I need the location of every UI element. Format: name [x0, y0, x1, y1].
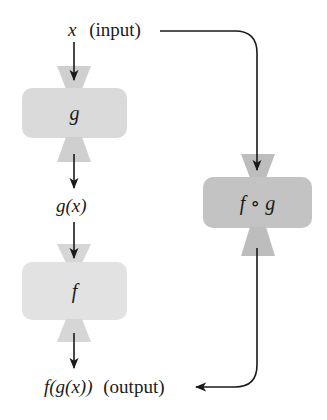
arrow-fog-to-output	[196, 248, 257, 387]
output-note: (output)	[103, 376, 164, 397]
machine-fog-label: f ∘ g	[203, 193, 312, 213]
output-label: f(g(x)) (output)	[44, 377, 165, 396]
input-var: x	[68, 19, 76, 40]
input-note: (input)	[89, 19, 141, 40]
machine-g-label: g	[22, 103, 127, 123]
machine-fog-top-funnel	[241, 154, 275, 178]
machine-fog-bottom-funnel	[241, 227, 275, 256]
machine-f-label: f	[22, 281, 127, 301]
intermediate-label: g(x)	[56, 196, 87, 215]
input-label: x (input)	[68, 20, 141, 39]
output-expr: f(g(x))	[44, 376, 93, 397]
arrow-input-to-fog	[160, 31, 257, 170]
